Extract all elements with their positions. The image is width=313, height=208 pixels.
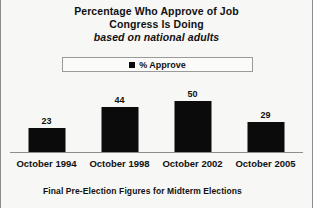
bar-group-2: 50 (156, 80, 229, 152)
chart-title-line-1: Percentage Who Approve of Job (0, 5, 313, 18)
bar-0 (28, 128, 65, 152)
bar-1 (101, 107, 138, 152)
chart-title-line-2: Congress Is Doing (0, 18, 313, 31)
chart-subtitle: based on national adults (0, 30, 313, 44)
bar-value-label-1: 44 (114, 95, 124, 105)
x-axis-category-labels: October 1994 October 1998 October 2002 O… (10, 158, 303, 172)
bar-2 (174, 101, 211, 152)
bar-3 (247, 122, 284, 152)
filled-square-marker-icon (129, 62, 135, 68)
chart-title-block: Percentage Who Approve of Job Congress I… (0, 5, 313, 44)
bar-value-label-3: 29 (260, 110, 270, 120)
x-axis-label-2: October 2002 (156, 158, 229, 169)
bar-group-0: 23 (10, 80, 83, 152)
x-axis-label-1: October 1998 (83, 158, 156, 169)
bar-group-3: 29 (229, 80, 302, 152)
bar-value-label-2: 50 (187, 89, 197, 99)
x-axis-label-0: October 1994 (10, 158, 83, 169)
chart-container: Percentage Who Approve of Job Congress I… (0, 0, 313, 208)
chart-footer-note: Final Pre-Election Figures for Midterm E… (0, 186, 285, 196)
legend-entry-approve: % Approve (139, 60, 186, 70)
bar-value-label-0: 23 (41, 116, 51, 126)
chart-legend: % Approve (62, 57, 253, 72)
x-axis-baseline (10, 152, 303, 153)
plot-area: 23 44 50 29 (10, 80, 303, 153)
bar-group-1: 44 (83, 80, 156, 152)
x-axis-label-3: October 2005 (229, 158, 302, 169)
